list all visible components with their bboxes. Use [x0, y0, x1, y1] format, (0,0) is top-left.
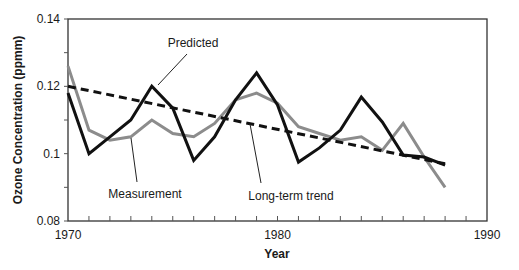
y-axis-title: Ozone Concentration (ppmm) [11, 36, 25, 205]
x-tick-label: 1990 [474, 228, 501, 242]
y-tick-label: 0.12 [37, 79, 61, 93]
x-tick-label: 1980 [264, 228, 291, 242]
annotation-leader-line [131, 138, 137, 182]
annotation-label: Predicted [168, 36, 219, 50]
annotations-layer: PredictedMeasurementLong-term trend [108, 36, 333, 203]
series-layer [68, 66, 445, 187]
ozone-line-chart: 1970198019900.080.10.120.14 PredictedMea… [0, 0, 519, 270]
x-axis-title: Year [264, 247, 290, 261]
x-tick-label: 1970 [55, 228, 82, 242]
annotation-leader-line [158, 54, 187, 85]
annotation-leader-line [250, 124, 261, 183]
axes: 1970198019900.080.10.120.14 [37, 12, 501, 242]
y-tick-label: 0.14 [37, 12, 61, 26]
y-tick-label: 0.1 [43, 147, 60, 161]
annotation-label: Long-term trend [248, 189, 333, 203]
annotation-label: Measurement [108, 187, 182, 201]
y-tick-label: 0.08 [37, 214, 61, 228]
